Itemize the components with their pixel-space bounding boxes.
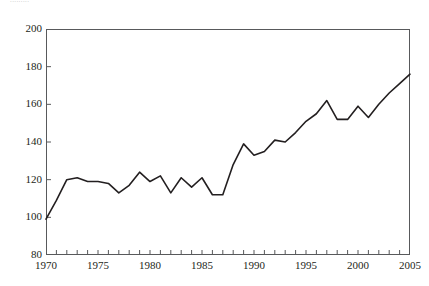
- data-line-group: [46, 74, 410, 219]
- x-axis-ticks: [56, 250, 399, 255]
- chart-canvas: [0, 0, 429, 286]
- data-line-series-index: [46, 74, 410, 219]
- chart-figure: ......... 80100120140160180200 197019751…: [0, 0, 429, 286]
- y-axis-ticks: [46, 67, 51, 218]
